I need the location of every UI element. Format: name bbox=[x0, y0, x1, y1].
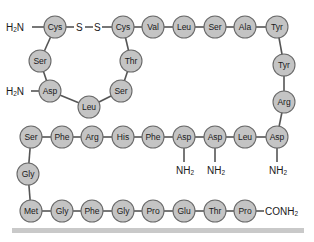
residue-his: His bbox=[112, 126, 134, 148]
residue-leu: Leu bbox=[234, 126, 256, 148]
residue-cys: Cys bbox=[112, 16, 134, 38]
residue-ala: Ala bbox=[234, 16, 256, 38]
residue-val: Val bbox=[142, 16, 164, 38]
peptide-bonds bbox=[28, 27, 284, 211]
residue-label: Asp bbox=[43, 86, 58, 96]
n-terminus-asp: H2N bbox=[6, 86, 24, 97]
residue-asp: Asp bbox=[39, 80, 61, 102]
residue-asp: Asp bbox=[173, 126, 195, 148]
residue-label: Leu bbox=[177, 22, 191, 32]
residue-phe: Phe bbox=[142, 126, 164, 148]
residue-ser: Ser bbox=[110, 80, 132, 102]
residue-thr: Thr bbox=[120, 50, 142, 72]
residue-label: Ser bbox=[208, 22, 221, 32]
residue-asp: Asp bbox=[204, 126, 226, 148]
residue-label: Met bbox=[24, 206, 39, 216]
residue-label: Phe bbox=[145, 132, 160, 142]
residue-label: Arg bbox=[277, 97, 291, 107]
residue-label: Thr bbox=[125, 56, 138, 66]
residue-pro: Pro bbox=[234, 200, 256, 222]
residue-arg: Arg bbox=[273, 91, 295, 113]
residue-leu: Leu bbox=[173, 16, 195, 38]
residue-glu: Glu bbox=[173, 200, 195, 222]
side-bonds bbox=[31, 27, 277, 211]
residue-tyr: Tyr bbox=[266, 16, 288, 38]
residue-label: His bbox=[117, 132, 129, 142]
residue-label: Val bbox=[147, 22, 159, 32]
residue-pro: Pro bbox=[142, 200, 164, 222]
residue-label: Cys bbox=[116, 22, 131, 32]
residues: CysCysValLeuSerAlaTyrSerAspLeuSerThrTyrA… bbox=[17, 16, 295, 222]
residue-label: Gly bbox=[22, 169, 36, 179]
residue-label: Pro bbox=[238, 206, 252, 216]
residue-gly: Gly bbox=[51, 200, 73, 222]
residue-gly: Gly bbox=[112, 200, 134, 222]
residue-label: Ala bbox=[239, 22, 252, 32]
residue-cys: Cys bbox=[44, 16, 66, 38]
residue-thr: Thr bbox=[204, 200, 226, 222]
c-terminus-amide: CONH2 bbox=[265, 206, 298, 217]
residue-label: Leu bbox=[82, 102, 96, 112]
sulfur-label-1: S bbox=[76, 22, 83, 33]
residue-label: Ser bbox=[24, 132, 37, 142]
residue-label: Glu bbox=[177, 206, 191, 216]
residue-gly: Gly bbox=[17, 163, 39, 185]
residue-label: Asp bbox=[270, 132, 285, 142]
residue-arg: Arg bbox=[81, 126, 103, 148]
amide-group-3: NH2 bbox=[269, 165, 287, 176]
residue-tyr: Tyr bbox=[273, 54, 295, 76]
n-terminus-top: H2N bbox=[6, 22, 24, 33]
sulfur-label-2: S bbox=[94, 22, 101, 33]
peptide-diagram: CysCysValLeuSerAlaTyrSerAspLeuSerThrTyrA… bbox=[0, 0, 314, 242]
residue-label: Gly bbox=[117, 206, 131, 216]
bottom-divider-bar bbox=[12, 228, 304, 233]
residue-asp: Asp bbox=[266, 126, 288, 148]
residue-label: Ser bbox=[33, 56, 46, 66]
residue-phe: Phe bbox=[51, 126, 73, 148]
residue-label: Thr bbox=[209, 206, 222, 216]
residue-label: Tyr bbox=[271, 22, 283, 32]
residue-label: Gly bbox=[56, 206, 70, 216]
residue-label: Ser bbox=[114, 86, 127, 96]
amide-group-1: NH2 bbox=[176, 165, 194, 176]
residue-label: Phe bbox=[54, 132, 69, 142]
residue-leu: Leu bbox=[78, 96, 100, 118]
residue-label: Cys bbox=[48, 22, 63, 32]
residue-label: Tyr bbox=[278, 60, 290, 70]
residue-ser: Ser bbox=[204, 16, 226, 38]
residue-label: Pro bbox=[146, 206, 160, 216]
residue-label: Arg bbox=[85, 132, 99, 142]
residue-label: Phe bbox=[84, 206, 99, 216]
residue-ser: Ser bbox=[29, 50, 51, 72]
residue-label: Asp bbox=[208, 132, 223, 142]
amide-group-2: NH2 bbox=[207, 165, 225, 176]
residue-label: Asp bbox=[177, 132, 192, 142]
residue-met: Met bbox=[20, 200, 42, 222]
residue-ser: Ser bbox=[20, 126, 42, 148]
residue-phe: Phe bbox=[81, 200, 103, 222]
residue-label: Leu bbox=[238, 132, 252, 142]
